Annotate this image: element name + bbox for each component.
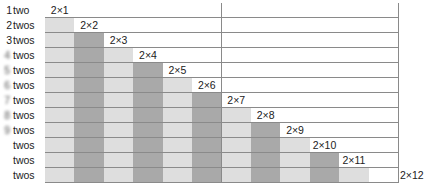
shaded-cell: [89, 123, 105, 138]
shaded-cell: [177, 78, 193, 93]
empty-cell: [383, 168, 399, 183]
shaded-cell: [177, 168, 193, 183]
empty-cell: [177, 3, 193, 18]
empty-cell: [177, 33, 193, 48]
shaded-cell: [89, 48, 105, 63]
shaded-cell: [45, 153, 61, 168]
empty-cell: [163, 33, 179, 48]
shaded-cell: [74, 138, 90, 153]
grid-row: 2×1: [46, 3, 399, 18]
empty-cell: [310, 123, 326, 138]
empty-cell: [222, 48, 238, 63]
shaded-cell: [222, 138, 238, 153]
empty-cell: [163, 18, 179, 33]
shaded-cell: [133, 168, 149, 183]
empty-cell: [266, 78, 282, 93]
empty-cell: [324, 3, 340, 18]
empty-cell: [192, 63, 208, 78]
grid-row: 2×7: [46, 93, 399, 108]
empty-cell: [266, 33, 282, 48]
row-number: 5: [2, 63, 10, 78]
empty-cell: [119, 3, 135, 18]
grid-row: 2×11: [46, 153, 399, 168]
empty-cell: [369, 138, 385, 153]
grid-row: 2×4: [46, 48, 399, 63]
empty-cell: [236, 33, 252, 48]
shaded-cell: [163, 138, 179, 153]
shaded-cell: [266, 153, 282, 168]
shaded-cell: [177, 153, 193, 168]
shaded-cell: [45, 33, 61, 48]
empty-cell: [310, 18, 326, 33]
shaded-cell: [177, 93, 193, 108]
product-label-cell: 2×9: [280, 123, 310, 138]
empty-cell: [369, 78, 385, 93]
row-number: 4: [2, 48, 10, 63]
row-number: 8: [2, 108, 10, 123]
shaded-cell: [148, 123, 164, 138]
product-label-cell: 2×11: [339, 153, 369, 168]
shaded-cell: [251, 123, 267, 138]
empty-cell: [222, 63, 238, 78]
empty-cell: [280, 78, 296, 93]
empty-cell: [236, 3, 252, 18]
shaded-cell: [222, 153, 238, 168]
empty-cell: [266, 63, 282, 78]
row-label: 4twos: [0, 48, 44, 63]
empty-cell: [280, 33, 296, 48]
row-word: twos: [13, 138, 35, 153]
empty-cell: [383, 48, 399, 63]
shaded-cell: [60, 123, 76, 138]
shaded-cell: [60, 93, 76, 108]
shaded-cell: [295, 153, 311, 168]
shaded-cell: [163, 153, 179, 168]
empty-cell: [369, 108, 385, 123]
shaded-cell: [89, 93, 105, 108]
empty-cell: [383, 33, 399, 48]
product-label-cell: 2×1: [45, 3, 75, 18]
row-word: two: [13, 3, 29, 18]
empty-cell: [207, 18, 223, 33]
shaded-cell: [163, 168, 179, 183]
empty-cell: [163, 48, 179, 63]
empty-cell: [280, 108, 296, 123]
row-label: 7twos: [0, 93, 44, 108]
row-word: twos: [13, 18, 35, 33]
shaded-cell: [119, 78, 135, 93]
empty-cell: [369, 33, 385, 48]
empty-cell: [280, 3, 296, 18]
empty-cell: [383, 18, 399, 33]
empty-cell: [251, 18, 267, 33]
empty-cell: [383, 108, 399, 123]
empty-cell: [236, 18, 252, 33]
grid-row: 2×8: [46, 108, 399, 123]
empty-cell: [339, 63, 355, 78]
shaded-cell: [133, 153, 149, 168]
product-label-cell: 2×6: [192, 78, 222, 93]
empty-cell: [236, 78, 252, 93]
shaded-cell: [89, 153, 105, 168]
empty-cell: [266, 48, 282, 63]
row-label: 6twos: [0, 78, 44, 93]
empty-cell: [369, 3, 385, 18]
empty-cell: [295, 18, 311, 33]
empty-cell: [222, 78, 238, 93]
empty-cell: [295, 108, 311, 123]
empty-cell: [369, 168, 385, 183]
row-label: 3twos: [0, 33, 44, 48]
shaded-cell: [133, 123, 149, 138]
empty-cell: [354, 78, 370, 93]
empty-cell: [383, 78, 399, 93]
shaded-cell: [104, 63, 120, 78]
empty-cell: [148, 3, 164, 18]
empty-cell: [354, 138, 370, 153]
shaded-cell: [104, 123, 120, 138]
empty-cell: [251, 78, 267, 93]
grid-row: 2×2: [46, 18, 399, 33]
shaded-cell: [74, 93, 90, 108]
product-label-cell: 2×5: [163, 63, 193, 78]
empty-cell: [280, 18, 296, 33]
empty-cell: [222, 3, 238, 18]
empty-cell: [354, 93, 370, 108]
shaded-cell: [133, 138, 149, 153]
